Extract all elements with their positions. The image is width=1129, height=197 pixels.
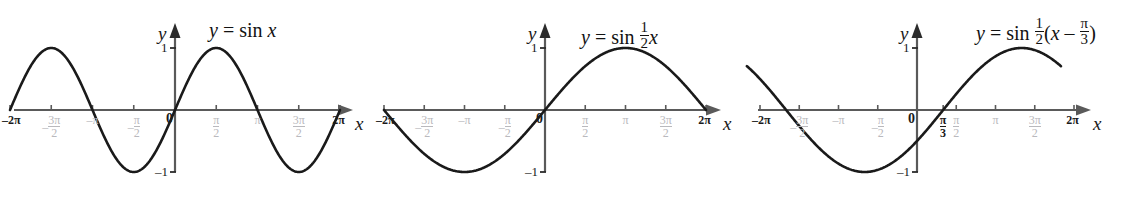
- sine-curve: [747, 48, 1061, 172]
- title-lhs: y: [976, 22, 985, 44]
- origin-label: 0: [908, 112, 915, 126]
- equation-title: y = sin 12x: [581, 20, 658, 52]
- title-coefficient: 12: [640, 26, 650, 48]
- x-tick-label-6: π: [255, 114, 261, 126]
- equation-title: y = sin 12(x – π3): [976, 16, 1096, 48]
- title-variable: x: [649, 26, 658, 48]
- x-tick-label-8: 3π2: [1029, 114, 1041, 139]
- x-tick-label-9: 2π: [1066, 114, 1079, 126]
- x-tick-label-3: –π2: [499, 114, 511, 139]
- y-tick-label-neg-one: –1: [155, 165, 168, 178]
- title-equals: =: [595, 26, 606, 48]
- x-tick-label-1: –3π2: [790, 114, 808, 139]
- title-open-paren: (: [1044, 22, 1051, 44]
- y-tick-label-one: 1: [531, 41, 538, 54]
- y-tick-label-one: 1: [161, 41, 168, 54]
- title-function: sin: [1006, 22, 1029, 44]
- x-tick-label-1: –3π2: [415, 114, 433, 139]
- equation-title: y = sin x: [209, 20, 276, 40]
- panel-canvas: [0, 0, 1129, 197]
- title-variable: x: [268, 19, 277, 41]
- x-axis-label: x: [723, 114, 731, 133]
- x-tick-label-2: –π: [86, 114, 98, 126]
- title-lhs: y: [581, 26, 590, 48]
- title-coefficient: 12: [1035, 22, 1045, 44]
- panel-canvas: [0, 0, 1129, 197]
- x-tick-label-0: –2π: [376, 114, 395, 126]
- title-lhs: y: [209, 19, 218, 41]
- x-tick-label-6: π2: [953, 114, 959, 139]
- title-variable: x: [1051, 22, 1060, 44]
- sine-curve: [10, 48, 340, 172]
- title-close-paren: ): [1089, 22, 1096, 44]
- y-axis-arrow: [912, 23, 923, 38]
- y-tick-label-neg-one: –1: [525, 165, 538, 178]
- x-tick-label-7: 3π2: [660, 114, 672, 139]
- x-tick-label-3: –π2: [872, 114, 884, 139]
- x-tick-label-5: π2: [582, 114, 588, 139]
- sine-graphs-figure: yx1–1–2π–3π2–π–π20π2π3π22πy = sin xyx1–1…: [0, 0, 1129, 197]
- y-tick-label-neg-one: –1: [897, 165, 910, 178]
- x-tick-label-3: –π2: [128, 114, 140, 139]
- title-function: sin: [239, 19, 262, 41]
- title-phase: π3: [1080, 22, 1090, 44]
- x-tick-label-7: π: [993, 114, 999, 126]
- x-tick-label-5: π2: [213, 114, 219, 139]
- x-tick-label-1: –3π2: [42, 114, 60, 139]
- title-equals: =: [223, 19, 234, 41]
- panel-canvas: [0, 0, 1129, 197]
- x-tick-label-6: π: [623, 114, 629, 126]
- x-tick-label-8: 2π: [698, 114, 711, 126]
- origin-label: 0: [166, 112, 173, 126]
- y-axis-arrow: [540, 23, 551, 38]
- x-axis-label: x: [355, 114, 363, 133]
- sine-curve: [384, 48, 706, 172]
- title-function: sin: [611, 26, 634, 48]
- title-minus: –: [1065, 22, 1075, 44]
- x-tick-label-2: –π: [459, 114, 471, 126]
- x-tick-label-0: –2π: [752, 114, 771, 126]
- x-tick-label-7: 3π2: [293, 114, 305, 139]
- title-equals: =: [990, 22, 1001, 44]
- origin-label: 0: [536, 112, 543, 126]
- x-axis-label: x: [1093, 114, 1101, 133]
- x-tick-label-2: –π: [833, 114, 845, 126]
- y-axis-arrow: [170, 23, 181, 38]
- x-tick-label-8: 2π: [332, 114, 345, 126]
- y-tick-label-one: 1: [903, 41, 910, 54]
- x-tick-label-5: π3: [940, 114, 947, 139]
- x-tick-label-0: –2π: [2, 114, 21, 126]
